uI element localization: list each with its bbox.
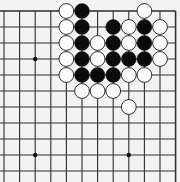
black-stone <box>106 68 121 83</box>
white-stone <box>121 68 136 83</box>
star-point <box>33 57 37 61</box>
white-stone <box>121 100 136 115</box>
black-stone <box>75 52 90 67</box>
go-board[interactable] <box>0 0 180 182</box>
white-stone <box>137 4 152 19</box>
black-stone <box>106 52 121 67</box>
black-stone <box>106 20 121 35</box>
white-stone <box>121 36 136 51</box>
white-stone <box>90 84 105 99</box>
white-stone <box>121 20 136 35</box>
black-stone <box>106 36 121 51</box>
black-stone <box>137 52 152 67</box>
white-stone <box>90 36 105 51</box>
white-stone <box>59 52 74 67</box>
white-stone <box>106 84 121 99</box>
black-stone <box>75 20 90 35</box>
star-point <box>33 153 37 157</box>
white-stone <box>59 4 74 19</box>
white-stone <box>153 36 168 51</box>
black-stone <box>90 68 105 83</box>
white-stone <box>59 68 74 83</box>
black-stone <box>75 4 90 19</box>
white-stone <box>153 52 168 67</box>
white-stone <box>75 84 90 99</box>
star-point <box>127 153 131 157</box>
white-stone <box>59 20 74 35</box>
black-stone <box>137 36 152 51</box>
white-stone <box>153 20 168 35</box>
black-stone <box>121 52 136 67</box>
black-stone <box>75 68 90 83</box>
black-stone <box>75 36 90 51</box>
white-stone <box>137 68 152 83</box>
white-stone <box>90 52 105 67</box>
black-stone <box>137 20 152 35</box>
white-stone <box>59 36 74 51</box>
